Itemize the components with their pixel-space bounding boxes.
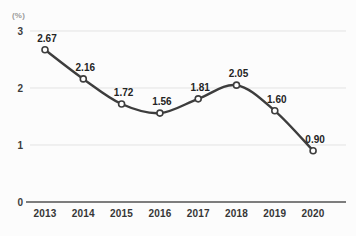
x-axis-tick-label: 2014 [72, 208, 95, 219]
data-point-label: 0.90 [305, 134, 325, 145]
y-axis-tick-label: 0 [17, 197, 23, 208]
data-point-marker [272, 108, 278, 114]
line-chart: (%) 012320132014201520162017201820192020… [0, 0, 356, 236]
y-axis-tick-label: 1 [17, 140, 23, 151]
data-point-label: 1.60 [267, 94, 287, 105]
data-point-marker [157, 110, 163, 116]
chart-canvas: 0123201320142015201620172018201920202.67… [0, 0, 356, 236]
x-axis-tick-label: 2019 [263, 208, 286, 219]
data-point-marker [42, 47, 48, 53]
data-point-label: 2.16 [76, 62, 96, 73]
x-axis-tick-label: 2017 [187, 208, 210, 219]
data-point-marker [195, 96, 201, 102]
y-axis-tick-label: 2 [17, 83, 23, 94]
x-axis-tick-label: 2018 [225, 208, 248, 219]
data-point-label: 1.81 [190, 82, 210, 93]
y-axis-unit-label: (%) [12, 11, 25, 20]
x-axis-tick-label: 2020 [302, 208, 325, 219]
data-point-marker [80, 76, 86, 82]
x-axis-tick-label: 2016 [148, 208, 171, 219]
data-point-label: 2.05 [229, 68, 249, 79]
data-point-marker [310, 148, 316, 154]
data-point-label: 2.67 [37, 33, 57, 44]
data-point-label: 1.56 [152, 96, 172, 107]
data-point-marker [234, 82, 240, 88]
x-axis-tick-label: 2015 [110, 208, 133, 219]
data-point-label: 1.72 [114, 87, 134, 98]
y-axis-tick-label: 3 [17, 26, 23, 37]
data-point-marker [119, 101, 125, 107]
x-axis-tick-label: 2013 [33, 208, 56, 219]
